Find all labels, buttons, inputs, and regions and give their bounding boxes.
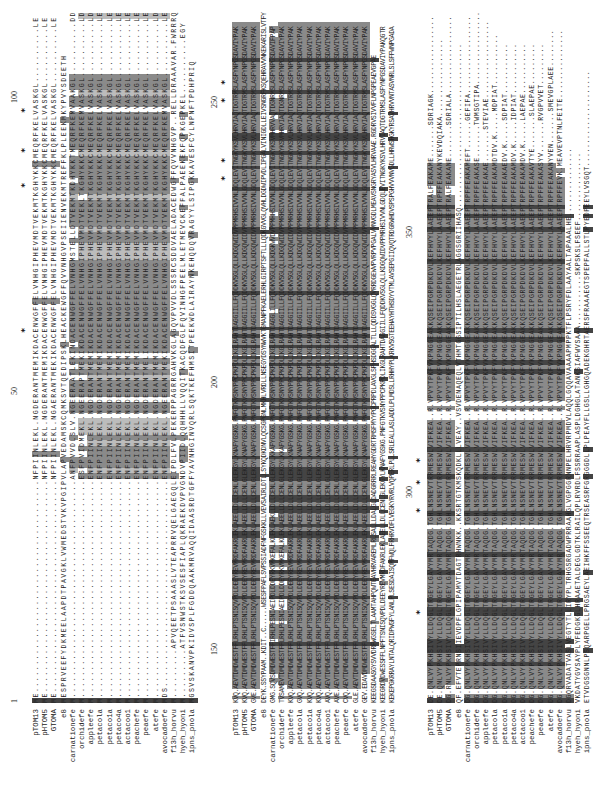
sequence-text: DEYK.SSYPAAM..KDIT..C......WSESFPAFLSVPS… [261,12,268,703]
position-number: 300 [405,486,414,498]
sequence-row: appleefeKVQ.AEVTDMDWESTFFLRHLPTSNISQVPDL… [287,0,296,803]
sequence-text: KVQ.AEVTDMDWESTFFLRHLPTSNISQVPDLDEEYREVM… [307,27,314,703]
sequence-residues: MESPRVEEFYDKMEELAAPDTPAVGKLVWMEDSTVKVPGI… [60,8,69,703]
conservation-star-icon: * [220,158,230,163]
sequence-row: pHTOM5DE.QNLVYPKHSIVYLLDQGLTRGEYLGAVYMRT… [436,0,445,803]
sequence-row: orchidefeM..............................… [78,0,87,803]
sequence-name: petaco1a [106,709,115,789]
sequence-residues: M.......................................… [133,8,142,703]
sequence-name: petaco1a [306,709,315,789]
sequence-residues: DEYK.SSYPAAM..KDIT..C......WSESFPAFLSVPS… [260,8,269,703]
sequence-name: carnationefe [69,709,78,789]
sequence-text: ME......................................… [33,16,40,703]
sequence-residues: ME......................................… [50,8,59,703]
sequence-name: petaco4a [115,709,124,789]
sequence-residues: ME......................................… [32,8,41,703]
sequence-residues: KEEGSDAASGYSVVDRFWGSELTLAAMTAHPQWTEAVHRV… [370,8,379,703]
sequence-row: petacolaDG.QNLVYPKHSIVYLLDQGLTRGEYLGAVYM… [491,0,500,803]
position-number: 150 [210,643,219,655]
sequence-name: actacoo1 [324,709,333,789]
sequence-row: e8DEYK.SSYPAAM..KDIT..C......WSESFPAFLSV… [260,0,269,803]
position-number: 250 [210,96,219,108]
sequence-text: M.......................................… [70,11,77,703]
sequence-name: peaefe [142,709,151,789]
sequence-text: M.......................................… [79,11,86,703]
sequence-row: peachefeDG.QNLVYPKHSIVYLLDQGLTRGEYLGAVYM… [528,0,537,803]
conservation-star-icon: * [220,80,230,85]
sequence-name: GTOMA [50,709,59,789]
sequence-residues: M.........APVQEETPSAAASLVTEAPRRVQELGAEGQ… [170,8,179,703]
sequence-name: appleefe [287,709,296,789]
sequence-text: DG.QNLVYPKHSIVYLLDQGLTRGEYLGAVYMRTAQDG.T… [465,16,472,703]
sequence-residues: KVQ.AEVTDMDWESTFFLRHLPTSNISQVPDLDEEYREVM… [287,8,296,703]
conservation-star-icon: * [20,148,30,153]
sequence-residues: GVE.AEVTDMDWESTFFLRHLPTSNISQVPDLDEEYREVM… [250,8,259,703]
sequence-row: petaco4aDG.QNLVYPKHSIVYLLDQGLTRGEYLGAVYM… [510,0,519,803]
sequence-residues: KVQ.AEVTDMDWESTFFLRHLPTSNISQVPDLDEEYREVM… [232,8,241,703]
sequence-row: GTOMADG.RNLVYPKHSIVYLLDQGLTRGEYLGAVYMRTA… [445,0,454,803]
sequence-row: f13h_horvuM.........APVQEETPSAAASLVTEAPR… [170,0,179,803]
sequence-text: AVE.AEVTDMDWESTFFLRHLPTSNISQVPDLDEEYREVM… [334,27,341,703]
sequence-residues: M.......................................… [152,8,161,703]
sequence-row: appleefeM...............................… [87,0,96,803]
sequence-row: orchidefeDG.QNLVYPKHSIVYLLDQGLTRGEYLGAVY… [473,0,482,803]
sequence-row: pHTOM5KVQ.AEVTDMDWESTFFLRHLPTSNISQVPDLDE… [241,0,250,803]
sequence-name: peaefe [342,709,351,789]
sequence-name: orchidefe [78,709,87,789]
sequence-text: ETVDGSGNNLPSQARPGELLPRGSAEYLAEIHKFFSSEEQ… [584,71,591,703]
sequence-name: ipns_pnola [188,709,197,789]
sequence-row: petaco4aKVQ.AEVTDMDWESTFFLRHLPTSNISQVPDL… [315,0,324,803]
sequence-text: VKDATYGVSAYPLYFEDGKGLHRAAETALDEGLGDTKLRA… [575,153,582,703]
sequence-name: petaco1a [501,709,510,789]
sequence-text: MESPRVEEFYDKMEELAAPDTPAVGKLVWMEDSTVKVPGI… [61,55,68,703]
sequence-row: e8MESPRVEEFYDKMEELAAPDTPAVGKLVWMEDSTVKVP… [60,0,69,803]
position-ruler: 150100**** [10,0,32,803]
sequence-text: DG.QNLVYPKHSIVYLLDQGLTRGEYLGAVYMRTAQDG.T… [474,12,481,704]
sequence-row: peachefeAVE.AEVTDMDWESTFFLRHLPTSNISQVPDL… [333,0,342,803]
conservation-star-icon: * [220,98,230,103]
sequence-name: carnationefe [464,709,473,789]
sequence-name: atefe [352,709,361,789]
sequence-residues: KEEGRDVDWESSFFLNPFTSNISQVPDLDEEYREVMRDFA… [379,8,388,703]
position-number: 200 [210,376,219,388]
sequence-residues: ETVDGSGNNLPSQARPGELLPRGSAEYLAEIHKFFSSEEQ… [583,8,592,703]
conservation-star-icon: * [20,108,30,113]
sequence-residues: M.......................................… [69,8,78,703]
sequence-text: DE.QNLVYPKHSIVYLLDQGLTRGEYLGAVYMRTAQDG.T… [437,39,444,703]
sequence-text: DE.QNLVYPKHSIVYLLDQGLTRGEYLGAVYMRTAQDG.T… [428,16,435,703]
sequence-name: petaco4a [315,709,324,789]
sequence-residues: MDS.....................................… [161,8,170,703]
sequence-text: KVQ.AEVTDMDWESTFFLRHLPTSNISQVPDLDEEYREVM… [242,27,249,703]
sequence-text: M.......................................… [143,11,150,703]
sequence-row: carnationefeM...........................… [69,0,78,803]
sequence-residues: DGQRVADATVASLVEGTYTLLIRYPLTRHGSRGADWPRRA… [565,8,574,703]
sequence-name: pHTOM5 [241,709,250,789]
sequence-row: hyeh_hyoniM.........ATFVSNWSTKSVSESFIAPL… [179,0,188,803]
sequence-name: ipns_pnola [388,709,397,789]
sequence-name: avocadoefe [161,709,170,789]
sequence-text: M.........APVQEETPSAAASLVTEAPRRVQELGAEGQ… [171,11,178,703]
sequence-text: MGSVSKANVPKIDVSPLFGDDQAAKMRVAQQIDAASRDTG… [189,60,196,703]
sequence-text: GVQ.AEVTDMDWESTFFLRHLPTSNISQVPDLDEEYREVM… [297,27,304,703]
sequence-text: M.......................................… [153,11,160,703]
sequence-residues: KVQ.AEVTDMDWESTFFLRHLPTSNISQVPDLDEEYREVM… [306,8,315,703]
sequence-text: M.......................................… [116,11,123,703]
sequence-row: actacoo1DG.QNLVYPKHSIVYLLDQGLTRGEYLGAVYM… [519,0,528,803]
sequence-row: avocadoefeMDS...........................… [161,0,170,803]
sequence-residues: DG.QNLVYPKHSIVYLLDQGLTRGEYLGAVYMRTAQDG.T… [482,8,491,703]
alignment-block-1: 150100****pTOM13ME......................… [10,0,200,803]
sequence-row: appleefeDG.QNLVYPKHSIVYLLDQGLTRGEYLGAVYM… [482,0,491,803]
alignment-block-2: 150200250****pTOM13KVQ.AEVTDMDWESTFFLRHL… [210,0,400,803]
sequence-text: M.........ATFVSNWSTKSVSESFIAPLQKRAEKDVPV… [180,22,187,703]
sequence-row: peaefeDG.QNLVYPKHSIVYLLDQGLTRGEYLGAVYMRT… [537,0,546,803]
sequence-residues: VKDATYGVSAYPLYFEDGKGLHRAAETALDEGLGDTKLRA… [574,8,583,703]
sequence-residues: KEKEPGKRRAYLNTALQRIDPWGFYLANLPLSESDAISQM… [388,8,397,703]
sequence-residues: M.......................................… [78,8,87,703]
sequence-row: atefeDG.QNLVYPKHSIVYLLDQGLTRGEYLGAVYMRTA… [547,0,556,803]
sequence-name: pHTOM5 [41,709,50,789]
sequence-name: peaefe [537,709,546,789]
sequence-residues: M.......................................… [142,8,151,703]
conservation-star-icon: * [415,458,425,463]
sequence-name: f13h_horvu [170,709,179,789]
sequence-residues: GEV.EDAVDMDWESTFFLRHLPTSNISQVPDLDEEYREVM… [361,8,370,703]
